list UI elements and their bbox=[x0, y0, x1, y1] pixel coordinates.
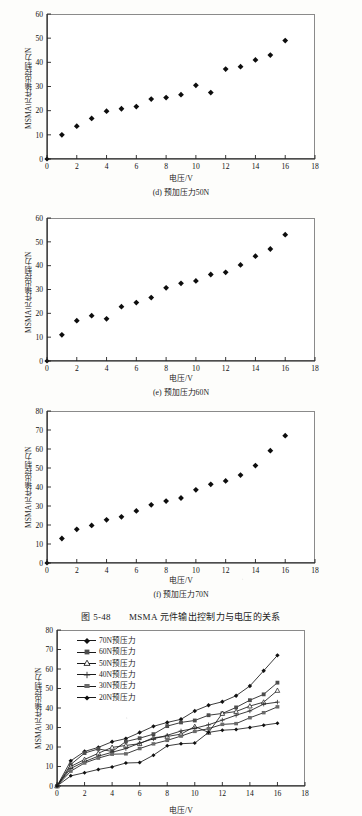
legend-label-30n: 30N预压力 bbox=[99, 682, 136, 690]
svg-text:0: 0 bbox=[45, 162, 49, 171]
axes-f: 02468101214161801020304050607080 bbox=[47, 411, 347, 593]
svg-text:80: 80 bbox=[45, 626, 53, 635]
svg-text:18: 18 bbox=[311, 162, 319, 171]
svg-text:8: 8 bbox=[165, 789, 169, 798]
svg-text:20: 20 bbox=[45, 743, 53, 752]
figure-caption-title: MSMA 元件输出控制力与电压的关系 bbox=[129, 612, 281, 622]
svg-text:0: 0 bbox=[39, 357, 43, 366]
panel-caption-e: (e) 预加压力60N bbox=[0, 386, 362, 397]
svg-text:70: 70 bbox=[45, 645, 53, 654]
plot-area-combined: 02468101214161801020304050607080 70N预压力 bbox=[57, 630, 305, 786]
legend-item[interactable]: 70N预压力 bbox=[77, 635, 136, 646]
y-axis-label-combined: MSMA元件输出控制力/N bbox=[33, 634, 44, 782]
chart-panel-f: MSMA元件输出控制力/N 02468101214161801020304050… bbox=[0, 401, 362, 606]
svg-text:16: 16 bbox=[274, 789, 282, 798]
svg-text:14: 14 bbox=[246, 789, 254, 798]
legend-item[interactable]: 40N预压力 bbox=[77, 669, 136, 680]
panel-caption-d: (d) 预加压力50N bbox=[0, 186, 362, 197]
svg-text:0: 0 bbox=[39, 559, 43, 568]
plot-area-f: 02468101214161801020304050607080 bbox=[47, 411, 315, 563]
svg-text:4: 4 bbox=[110, 789, 114, 798]
svg-text:60: 60 bbox=[35, 214, 43, 223]
x-axis-label-d: 电压/V bbox=[0, 172, 362, 183]
plot-area-d: 0246810121416180102030405060 bbox=[47, 14, 315, 159]
svg-text:10: 10 bbox=[35, 131, 43, 140]
legend-label-40n: 40N预压力 bbox=[99, 671, 136, 679]
figure-caption: 图 5-48 MSMA 元件输出控制力与电压的关系 bbox=[0, 610, 362, 623]
svg-text:60: 60 bbox=[35, 10, 43, 19]
x-axis-label-f: 电压/V bbox=[0, 574, 362, 585]
plot-area-e: 0246810121416180102030405060 bbox=[47, 218, 315, 361]
x-axis-label-combined: 电压/V bbox=[0, 804, 362, 815]
chart-panel-e: MSMA元件输出控制力/N 02468101214161801020304050… bbox=[0, 204, 362, 406]
svg-text:2: 2 bbox=[75, 162, 79, 171]
svg-text:2: 2 bbox=[83, 789, 87, 798]
svg-text:40: 40 bbox=[35, 483, 43, 492]
legend-label-50n: 50N预压力 bbox=[99, 660, 136, 668]
svg-text:6: 6 bbox=[134, 162, 138, 171]
legend-combined: 70N预压力 60N预压力 50N预 bbox=[77, 635, 136, 703]
legend-item[interactable]: 60N预压力 bbox=[77, 646, 136, 657]
svg-text:40: 40 bbox=[35, 261, 43, 270]
svg-text:40: 40 bbox=[45, 704, 53, 713]
svg-text:30: 30 bbox=[35, 502, 43, 511]
svg-text:30: 30 bbox=[35, 285, 43, 294]
svg-text:6: 6 bbox=[138, 789, 142, 798]
y-axis-label-d: MSMA元件输出控制力/N bbox=[23, 18, 34, 158]
svg-text:50: 50 bbox=[35, 464, 43, 473]
legend-item[interactable]: 50N预压力 bbox=[77, 658, 136, 669]
legend-label-20n: 20N预压力 bbox=[99, 694, 136, 702]
svg-text:10: 10 bbox=[45, 762, 53, 771]
svg-text:14: 14 bbox=[252, 162, 260, 171]
x-axis-label-e: 电压/V bbox=[0, 372, 362, 383]
svg-text:80: 80 bbox=[35, 407, 43, 416]
svg-text:12: 12 bbox=[222, 162, 230, 171]
legend-marker-60n bbox=[77, 652, 96, 653]
svg-text:16: 16 bbox=[281, 162, 289, 171]
svg-text:0: 0 bbox=[55, 789, 59, 798]
svg-text:40: 40 bbox=[35, 58, 43, 67]
axes-d: 0246810121416180102030405060 bbox=[47, 14, 347, 189]
svg-text:20: 20 bbox=[35, 106, 43, 115]
legend-item[interactable]: 20N预压力 bbox=[77, 692, 136, 703]
figure-page: MSMA元件输出控制力/N 02468101214161801020304050… bbox=[0, 0, 362, 816]
svg-text:60: 60 bbox=[45, 665, 53, 674]
svg-text:30: 30 bbox=[45, 723, 53, 732]
figure-caption-number: 图 5-48 bbox=[81, 612, 111, 622]
svg-text:20: 20 bbox=[35, 309, 43, 318]
legend-marker-50n bbox=[77, 663, 96, 664]
chart-panel-combined: MSMA元件输出控制力/N 02468101214161801020304050… bbox=[0, 626, 362, 816]
svg-text:4: 4 bbox=[105, 162, 109, 171]
svg-text:50: 50 bbox=[45, 684, 53, 693]
chart-panel-d: MSMA元件输出控制力/N 02468101214161801020304050… bbox=[0, 0, 362, 205]
panel-caption-f: (f) 预加压力70N bbox=[0, 588, 362, 599]
svg-text:10: 10 bbox=[192, 162, 200, 171]
svg-text:10: 10 bbox=[35, 540, 43, 549]
svg-text:70: 70 bbox=[35, 426, 43, 435]
svg-text:30: 30 bbox=[35, 82, 43, 91]
svg-text:12: 12 bbox=[219, 789, 227, 798]
legend-label-60n: 60N预压力 bbox=[99, 648, 136, 656]
y-axis-label-e: MSMA元件输出控制力/N bbox=[23, 222, 34, 362]
legend-marker-30n bbox=[77, 686, 96, 687]
svg-text:10: 10 bbox=[35, 333, 43, 342]
svg-text:0: 0 bbox=[39, 155, 43, 164]
svg-text:0: 0 bbox=[49, 782, 53, 791]
svg-text:50: 50 bbox=[35, 34, 43, 43]
legend-marker-20n bbox=[77, 697, 96, 698]
axes-e: 0246810121416180102030405060 bbox=[47, 218, 347, 391]
legend-marker-40n bbox=[77, 674, 96, 675]
svg-text:20: 20 bbox=[35, 521, 43, 530]
legend-marker-70n bbox=[77, 640, 96, 641]
y-axis-label-f: MSMA元件输出控制力/N bbox=[23, 415, 34, 560]
svg-text:50: 50 bbox=[35, 238, 43, 247]
legend-item[interactable]: 30N预压力 bbox=[77, 681, 136, 692]
svg-text:60: 60 bbox=[35, 445, 43, 454]
legend-label-70n: 70N预压力 bbox=[99, 637, 136, 645]
svg-text:10: 10 bbox=[191, 789, 199, 798]
svg-text:8: 8 bbox=[164, 162, 168, 171]
svg-text:18: 18 bbox=[301, 789, 309, 798]
